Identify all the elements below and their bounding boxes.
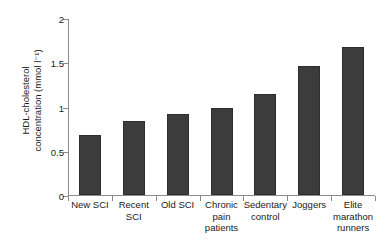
bar (211, 108, 233, 195)
bar (167, 114, 189, 195)
y-tick-label: 2 (59, 14, 64, 25)
y-tick-label: 1.5 (51, 58, 64, 69)
y-tick-label: 0.5 (51, 146, 64, 157)
y-axis-line (68, 19, 69, 196)
bar (342, 47, 364, 195)
x-tick-label: Sedentarycontrol (243, 199, 287, 222)
x-tick-label: Joggers (287, 199, 331, 211)
bar (123, 121, 145, 195)
x-tick-label: RecentSCI (112, 199, 156, 222)
y-axis-title-line-2: concentration (mmol l⁻¹) (31, 49, 43, 151)
x-tick-mark (375, 196, 376, 201)
bar (79, 135, 101, 195)
bar-chart-figure: HDL-cholesterol concentration (mmol l⁻¹)… (0, 0, 388, 246)
y-axis-title: HDL-cholesterol concentration (mmol l⁻¹) (14, 0, 48, 200)
x-tick-label: Elitemarathonrunners (331, 199, 375, 234)
x-tick-label: Chronicpainpatients (200, 199, 244, 234)
plot-area: 00.511.52 (68, 19, 375, 196)
y-tick-label: 0 (59, 191, 64, 202)
y-axis-title-line-1: HDL-cholesterol (20, 66, 31, 134)
bar (298, 66, 320, 195)
x-tick-label: Old SCI (156, 199, 200, 211)
x-axis-labels: New SCIRecentSCIOld SCIChronicpainpatien… (68, 199, 375, 246)
y-tick-label: 1 (59, 102, 64, 113)
x-tick-label: New SCI (68, 199, 112, 211)
x-axis-line (68, 195, 375, 196)
bar (254, 94, 276, 195)
